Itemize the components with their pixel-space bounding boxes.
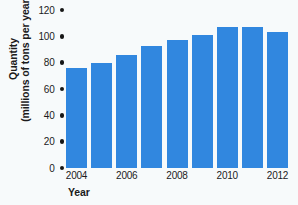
- y-axis-tick: 80: [44, 57, 64, 69]
- y-axis-tick: 20: [44, 136, 64, 148]
- y-axis-ticks: 120100806040200: [30, 10, 64, 168]
- x-axis-tick-label: 2006: [107, 170, 147, 181]
- y-axis-tick: 60: [44, 83, 64, 95]
- bar: [242, 27, 263, 168]
- y-axis-tick: 100: [38, 30, 64, 42]
- y-axis-tick-dot-icon: [60, 139, 65, 144]
- y-axis-tick-dot-icon: [60, 34, 65, 39]
- y-axis-tick-dot-icon: [60, 113, 65, 118]
- y-axis-tick-label: 0: [49, 163, 54, 174]
- bar: [267, 32, 288, 168]
- y-axis-tick-label: 100: [38, 31, 54, 42]
- bar: [116, 55, 137, 168]
- y-axis-tick-dot-icon: [60, 8, 65, 13]
- y-axis-tick-label: 120: [38, 5, 54, 16]
- x-axis-tick-label: 2008: [157, 170, 197, 181]
- y-axis-title-line-1: Quantity: [7, 38, 19, 80]
- bar: [192, 35, 213, 168]
- y-axis-tick-dot-icon: [60, 60, 65, 65]
- bar: [217, 27, 238, 168]
- bar: [66, 68, 87, 168]
- y-axis-tick-label: 20: [44, 136, 55, 147]
- plot-area: [66, 10, 288, 168]
- y-axis-tick-label: 40: [44, 110, 55, 121]
- y-axis-tick-dot-icon: [60, 87, 65, 92]
- x-axis-tick-label: 2010: [207, 170, 247, 181]
- bar-chart-figure: Quantity (millions of tons per year) 120…: [0, 0, 298, 205]
- bar: [167, 40, 188, 168]
- x-axis-title: Year: [68, 186, 90, 198]
- x-axis-ticks: 20042006200820102012: [66, 170, 288, 184]
- y-axis-tick-label: 80: [44, 57, 55, 68]
- bar: [141, 46, 162, 168]
- x-axis-tick-label: 2012: [258, 170, 298, 181]
- y-axis-tick-label: 60: [44, 84, 55, 95]
- y-axis-tick: 40: [44, 109, 64, 121]
- bar: [91, 63, 112, 168]
- bar-series: [66, 10, 288, 168]
- x-axis-tick-label: 2004: [57, 170, 97, 181]
- y-axis-tick: 120: [38, 4, 64, 16]
